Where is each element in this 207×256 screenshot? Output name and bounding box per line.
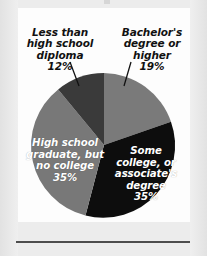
slice-value-high-school-graduate: 35%: [53, 172, 77, 183]
slice-value-some-college: 35%: [134, 191, 158, 202]
slice-label-less-than-high-school: Less than high school diploma 12%: [14, 15, 106, 85]
slice-label-some-college-text: Some college, or associate's degree: [115, 145, 177, 190]
slice-label-high-school-graduate: High school graduate, but no college 35%: [22, 126, 108, 183]
pie-chart: Less than high school diploma 12% Bachel…: [0, 0, 207, 256]
slice-value-bachelors: 19%: [110, 61, 194, 73]
slice-value-less-than-high-school: 12%: [14, 61, 106, 73]
slice-label-high-school-graduate-text: High school graduate, but no college: [26, 137, 104, 171]
slice-label-bachelors-text: Bachelor's degree or higher: [122, 26, 182, 61]
footer-divider-rule: [16, 241, 190, 243]
slice-label-some-college: Some college, or associate's degree 35%: [108, 134, 184, 202]
slice-label-bachelors: Bachelor's degree or higher 19%: [110, 15, 194, 85]
slice-label-less-than-high-school-text: Less than high school diploma: [27, 26, 94, 61]
page-container: Less than high school diploma 12% Bachel…: [0, 0, 207, 256]
